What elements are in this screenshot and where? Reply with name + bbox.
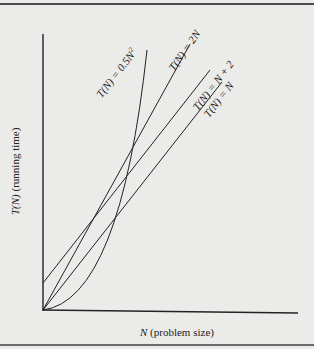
y-axis-label: T(N) (running time) (9, 128, 21, 215)
series-n-line (43, 82, 222, 310)
x-axis (42, 310, 298, 313)
figure-page: T(N) = 0.5N2 T(N) = 2N T(N) = N + 2 T(N)… (0, 0, 314, 349)
series-n-plus-2-line (43, 70, 210, 283)
plot-area (0, 0, 314, 349)
series-2n-line (43, 44, 190, 310)
x-axis-label: N (problem size) (140, 326, 214, 338)
